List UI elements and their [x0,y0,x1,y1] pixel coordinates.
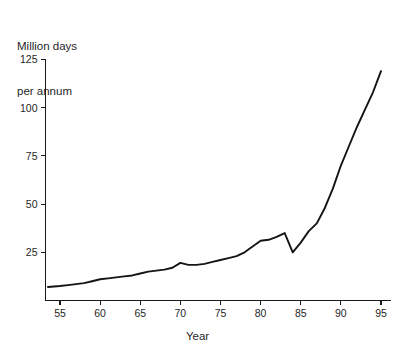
y-tick-label: 50 [26,198,38,210]
plot-area: 255075100125 556065707580859095 [0,0,395,353]
x-tick-label: 70 [175,307,187,319]
x-tick-label: 65 [134,307,146,319]
series-line [48,71,381,287]
y-tick-label: 75 [26,150,38,162]
x-axis-title: Year [0,329,395,344]
data-series-group [48,71,381,287]
x-axis: 556065707580859095 [46,301,392,319]
x-tick-label: 55 [54,307,66,319]
chart-figure: Million days per annum 255075100125 5560… [0,0,395,353]
x-tick-label: 85 [295,307,307,319]
y-tick-label: 125 [20,53,38,65]
y-axis: 255075100125 [20,53,46,300]
y-tick-label: 25 [26,246,38,258]
y-tick-label: 100 [20,102,38,114]
x-tick-label: 60 [94,307,106,319]
x-tick-label: 90 [335,307,347,319]
x-tick-label: 80 [255,307,267,319]
x-tick-label: 75 [215,307,227,319]
x-tick-label: 95 [375,307,387,319]
